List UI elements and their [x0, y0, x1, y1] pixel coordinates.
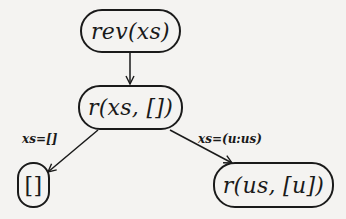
node-right-leaf: r(us, [u]) — [213, 162, 334, 208]
node-middle-label: r(xs, []) — [88, 95, 173, 120]
node-left-leaf-label: [] — [25, 173, 43, 198]
edge-label-left: xs=[] — [22, 132, 57, 146]
node-middle: r(xs, []) — [78, 85, 183, 130]
node-left-leaf: [] — [17, 162, 50, 208]
node-right-leaf-label: r(us, [u]) — [223, 173, 324, 198]
node-root: rev(xs) — [80, 9, 181, 53]
node-root-label: rev(xs) — [91, 19, 170, 44]
edge-label-right: xs=(u:us) — [198, 132, 262, 146]
